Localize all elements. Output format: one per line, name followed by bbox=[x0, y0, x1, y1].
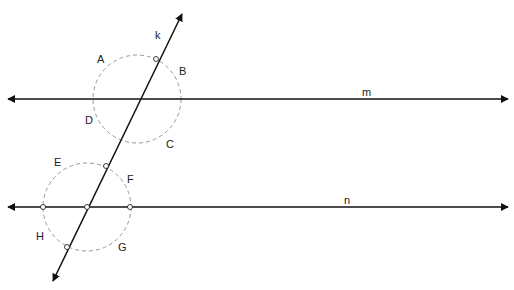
label-B: B bbox=[179, 65, 186, 77]
label-n: n bbox=[344, 194, 350, 206]
label-F: F bbox=[127, 173, 134, 185]
point-n-intersection bbox=[85, 205, 90, 210]
point-lower-top-on-k bbox=[104, 164, 109, 169]
label-D: D bbox=[85, 114, 93, 126]
label-m: m bbox=[362, 86, 371, 98]
label-H: H bbox=[36, 230, 44, 242]
geometry-diagram: k m n A B C D E F G H bbox=[0, 0, 514, 290]
label-A: A bbox=[97, 53, 105, 65]
point-n-left bbox=[41, 205, 46, 210]
point-upper-on-k bbox=[154, 57, 159, 62]
label-G: G bbox=[118, 241, 127, 253]
point-n-right bbox=[128, 205, 133, 210]
point-lower-bottom-on-k bbox=[65, 245, 70, 250]
label-k: k bbox=[155, 29, 161, 41]
label-C: C bbox=[166, 138, 174, 150]
label-E: E bbox=[54, 156, 61, 168]
